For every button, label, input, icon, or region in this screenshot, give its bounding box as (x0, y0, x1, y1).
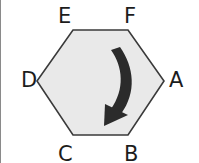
vertex-label-c: C (58, 144, 73, 163)
vertex-label-a: A (169, 70, 183, 91)
vertex-label-e: E (58, 6, 71, 27)
vertex-label-f: F (124, 6, 136, 27)
vertex-label-b: B (124, 144, 138, 163)
vertex-label-d: D (21, 70, 37, 91)
hexagon-outline (37, 30, 164, 135)
figure-canvas: E F D A C B (0, 0, 199, 163)
